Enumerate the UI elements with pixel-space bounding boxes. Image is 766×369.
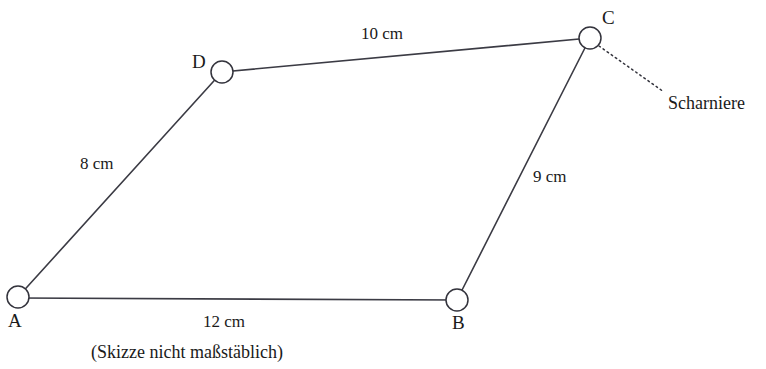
hinge-leader-line — [599, 46, 664, 92]
hinge-callout-label: Scharniere — [668, 94, 745, 112]
vertex-label-B: B — [452, 313, 465, 332]
vertex-circle-B — [446, 289, 468, 311]
vertex-circle-D — [211, 61, 233, 83]
edge-line-AB — [18, 298, 457, 300]
vertex-circle-A — [7, 286, 29, 308]
edge-line-BC — [457, 38, 590, 300]
quadrilateral-diagram-svg — [0, 0, 766, 369]
edge-label-DC: 10 cm — [361, 25, 403, 42]
figure-container: A B C D 12 cm 9 cm 10 cm 8 cm Scharniere… — [0, 0, 766, 369]
vertex-circle-C — [579, 27, 601, 49]
vertex-label-A: A — [8, 311, 22, 330]
hinge-leader-group — [599, 46, 664, 92]
edge-line-AD — [18, 72, 222, 297]
vertex-label-D: D — [192, 52, 206, 71]
scale-note: (Skizze nicht maßstäblich) — [91, 343, 283, 361]
edge-label-AD: 8 cm — [80, 155, 114, 172]
vertex-label-C: C — [602, 8, 615, 27]
edge-label-AB: 12 cm — [203, 313, 245, 330]
edge-label-BC: 9 cm — [533, 168, 567, 185]
edge-line-DC — [222, 38, 590, 72]
